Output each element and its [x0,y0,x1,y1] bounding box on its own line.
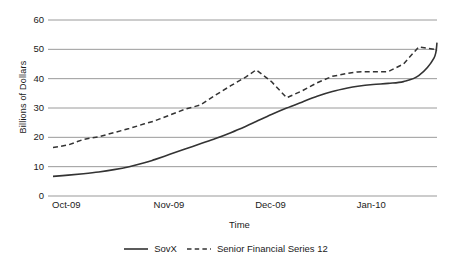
line-chart: Billions of Dollars 0102030405060 Oct-09… [0,0,451,267]
plot-area [0,0,451,210]
gridlines [48,20,437,196]
legend-label: SovX [154,243,177,254]
series-line-senior-financial-series-12 [53,47,437,148]
legend-item[interactable]: Senior Financial Series 12 [186,243,328,254]
legend-dashed-swatch-icon [186,244,212,254]
legend-item[interactable]: SovX [123,243,177,254]
series-lines [53,43,437,177]
series-line-sovx [53,43,437,177]
chart-legend: SovXSenior Financial Series 12 [0,243,451,254]
legend-label: Senior Financial Series 12 [217,243,328,254]
legend-solid-swatch-icon [123,244,149,254]
x-axis-title: Time [14,219,451,230]
